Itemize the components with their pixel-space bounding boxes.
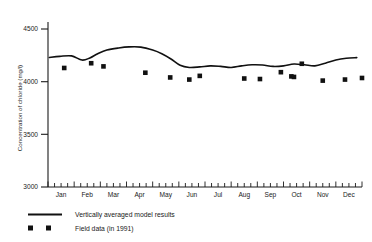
field-data-point (89, 61, 94, 66)
x-tick-label-aug: Aug (238, 191, 250, 199)
legend-label-field: Field data (in 1991) (75, 225, 134, 233)
x-tick-label-mar: Mar (108, 191, 120, 198)
field-data-point (343, 77, 348, 82)
x-tick-label-jan: Jan (56, 191, 67, 198)
field-data-point (300, 61, 305, 66)
field-data-point (242, 76, 247, 81)
field-data-point (143, 70, 148, 75)
y-axis-label: Concentration of chloride (mg/l) (16, 65, 23, 151)
y-tick-label-3500: 3500 (23, 131, 38, 138)
y-tick-label-4500: 4500 (23, 25, 38, 32)
legend-label-model: Vertically averaged model results (75, 211, 175, 219)
field-data-point (187, 77, 192, 82)
x-tick-label-nov: Nov (317, 191, 329, 198)
field-data-point (258, 77, 263, 82)
field-data-point (62, 66, 67, 71)
field-data-point (101, 64, 106, 69)
legend-square-swatch-a (28, 226, 33, 231)
field-data-point (197, 74, 202, 79)
x-tick-label-jun: Jun (187, 191, 198, 198)
x-tick-label-jul: Jul (214, 191, 223, 198)
x-tick-label-feb: Feb (82, 191, 94, 198)
legend-square-swatch-b (46, 226, 51, 231)
y-tick-label-4000: 4000 (23, 78, 38, 85)
x-tick-label-apr: Apr (134, 191, 145, 199)
chart-background (0, 0, 372, 242)
field-data-point (360, 76, 365, 81)
field-data-point (320, 78, 325, 83)
x-tick-label-sep: Sep (265, 191, 277, 199)
field-data-point (292, 75, 297, 80)
y-tick-label-3000: 3000 (23, 183, 38, 190)
field-data-point (168, 75, 173, 80)
chloride-concentration-chart: Concentration of chloride (mg/l) 4500 40… (0, 0, 372, 242)
field-data-point (279, 70, 284, 75)
x-tick-label-dec: Dec (343, 191, 355, 198)
x-tick-label-oct: Oct (291, 191, 301, 198)
x-tick-label-may: May (160, 191, 173, 199)
